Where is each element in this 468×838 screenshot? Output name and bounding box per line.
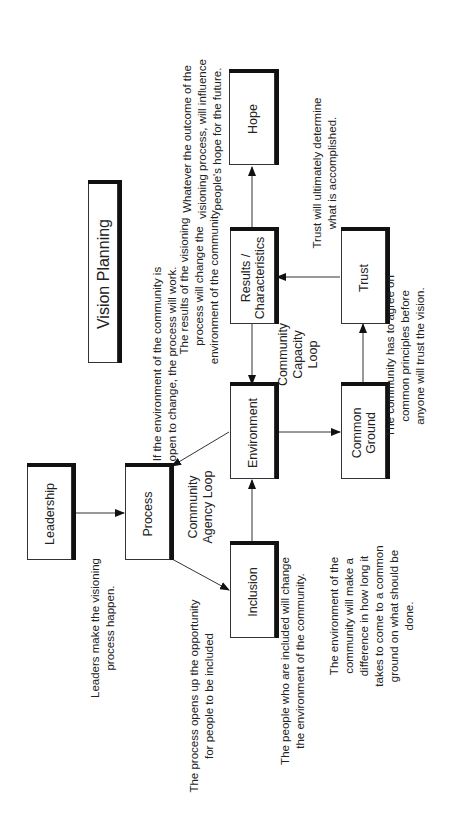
note-hope-line-3: people's hope for the future.	[210, 49, 225, 229]
capacity-loop-line-2: Capacity	[291, 315, 306, 395]
title-box: Vision Planning	[88, 183, 118, 363]
capacity-loop-line-1: Community	[276, 315, 291, 395]
note-environment-common-line-5: ground on what should be	[387, 536, 402, 696]
node-common-ground-line-2: Ground	[364, 386, 378, 480]
capacity-loop-label: Community Capacity Loop	[276, 315, 321, 395]
node-trust-label: Trust	[357, 231, 371, 325]
node-results: Results / Characteristics	[230, 230, 275, 324]
note-hope: Whatever the outcome of the visioning pr…	[180, 49, 226, 229]
vision-planning-diagram: Vision Planning Leadership Process Inclu…	[0, 0, 468, 838]
node-process-label: Process	[141, 467, 155, 561]
node-results-label: Results / Characteristics	[239, 231, 267, 325]
agency-loop-label: Community Agency Loop	[186, 457, 216, 557]
note-environment-common-line-6: done.	[402, 536, 417, 696]
agency-loop-line-2: Agency Loop	[201, 457, 216, 557]
note-inclusion-line-1: The people who are included will change	[278, 546, 293, 776]
node-hope-label: Hope	[246, 72, 260, 166]
note-environment-common-line-4: takes to come to a common	[372, 536, 387, 696]
note-environment-common-line-1: The environment of the	[327, 536, 342, 696]
note-leadership: Leaders make the visioning process happe…	[88, 558, 118, 698]
note-trust-line-1: Trust will ultimately determine	[310, 88, 325, 258]
note-environment-common-line-2: community will make a	[342, 536, 357, 696]
capacity-loop-line-3: Loop	[306, 315, 321, 395]
note-trust: Trust will ultimately determine what is …	[310, 88, 340, 258]
note-leadership-line-2: process happen.	[103, 558, 118, 698]
node-common-ground-label: Common Ground	[350, 386, 378, 480]
note-leadership-line-1: Leaders make the visioning	[88, 558, 103, 698]
edge-process-inclusion	[172, 559, 229, 590]
note-environment-process-line-1: If the environment of the community is	[150, 254, 165, 474]
node-inclusion-label: Inclusion	[246, 545, 260, 639]
node-trust: Trust	[341, 230, 386, 324]
note-common-ground: The community has to agree on common pri…	[383, 266, 429, 446]
node-leadership: Leadership	[27, 466, 72, 560]
node-leadership-label: Leadership	[43, 467, 57, 561]
node-hope: Hope	[229, 72, 275, 165]
note-inclusion: The people who are included will change …	[278, 546, 308, 776]
note-common-ground-line-3: anyone will trust the vision.	[413, 266, 428, 446]
note-hope-line-1: Whatever the outcome of the	[180, 49, 195, 229]
note-environment-common: The environment of the community will ma…	[327, 536, 419, 696]
note-process-line-2: for people to be included	[202, 591, 217, 801]
note-inclusion-line-2: the environment of the community.	[293, 546, 308, 776]
node-results-line-1: Results /	[239, 231, 253, 325]
node-common-ground: Common Ground	[341, 385, 386, 479]
note-environment-common-line-3: difference in how long it	[357, 536, 372, 696]
node-inclusion: Inclusion	[230, 544, 275, 638]
note-common-ground-line-2: common principles before	[398, 266, 413, 446]
node-common-ground-line-1: Common	[350, 386, 364, 480]
note-environment-process: If the environment of the community is o…	[150, 254, 180, 474]
note-process: The process opens up the opportunity for…	[187, 591, 217, 801]
node-environment: Environment	[230, 385, 275, 479]
agency-loop-line-1: Community	[186, 457, 201, 557]
page-title: Vision Planning	[94, 184, 114, 364]
note-process-line-1: The process opens up the opportunity	[187, 591, 202, 801]
node-results-line-2: Characteristics	[253, 231, 267, 325]
node-process: Process	[125, 466, 170, 560]
node-environment-label: Environment	[246, 386, 260, 480]
note-common-ground-line-1: The community has to agree on	[383, 266, 398, 446]
note-hope-line-2: visioning process, will influence	[195, 49, 210, 229]
note-trust-line-2: what is accomplished.	[325, 88, 340, 258]
